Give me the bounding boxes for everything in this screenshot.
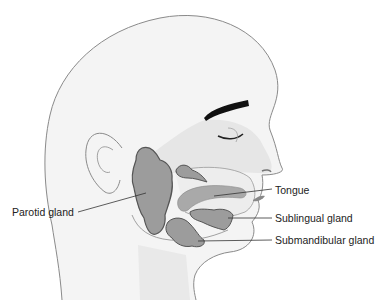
label-sublingual-gland: Sublingual gland [275, 212, 353, 224]
head-illustration [0, 0, 382, 307]
label-submandibular-gland: Submandibular gland [275, 234, 374, 246]
label-parotid-gland: Parotid gland [12, 206, 74, 218]
label-tongue: Tongue [275, 184, 309, 196]
